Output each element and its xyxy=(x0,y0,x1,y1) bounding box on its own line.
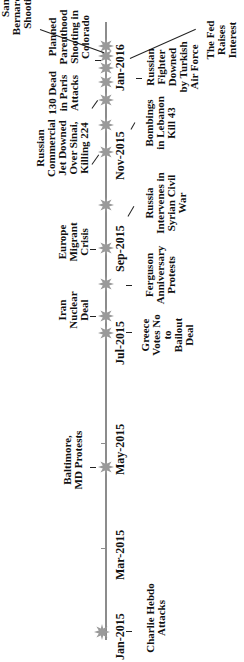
leader-line xyxy=(130,122,135,130)
event-marker-star-icon xyxy=(98,197,114,213)
event-marker-star-icon xyxy=(98,308,114,324)
leader-line xyxy=(95,60,101,61)
leader-line xyxy=(90,249,96,250)
event-label-san-bernardino: San Bernardino Shooting xyxy=(0,0,33,43)
event-marker-star-icon xyxy=(98,276,114,292)
leader-line xyxy=(90,467,96,468)
event-marker-star-icon xyxy=(94,624,110,640)
leader-line xyxy=(126,285,132,286)
event-label-fed-interest: The Fed Raises Interest xyxy=(205,12,238,68)
event-label-baltimore: Baltimore, MD Protests xyxy=(62,420,84,500)
event-marker-star-icon xyxy=(98,117,114,133)
event-marker-star-icon xyxy=(98,459,114,475)
month-label-sep-2015: Sep-2015 xyxy=(114,225,126,272)
month-label-mar-2015: Mar-2015 xyxy=(114,530,126,580)
month-label-nov-2015: Nov-2015 xyxy=(114,131,126,180)
event-label-planned-parenthood: Planned Parenthood Shooting in Colorado xyxy=(47,1,91,73)
event-marker-star-icon xyxy=(98,325,114,341)
month-label-may-2015: May-2015 xyxy=(114,424,126,475)
leader-line xyxy=(90,316,96,317)
axis-tick xyxy=(101,443,105,444)
leader-line xyxy=(136,78,142,79)
leader-line xyxy=(126,631,132,632)
event-label-russia-syria: Russia Intervenes in Syrian Civil War xyxy=(144,166,188,240)
timeline-chart: Jan-2015 Mar-2015 May-2015 Jul-2015 Sep-… xyxy=(0,0,244,662)
month-label-jan-2015: Jan-2015 xyxy=(114,613,126,660)
event-marker-star-icon xyxy=(98,240,114,256)
event-label-europe: Europe Migrant Crisis xyxy=(57,220,90,264)
event-marker-star-icon xyxy=(98,144,114,160)
event-label-russian-fighter: Russian Fighter Downed by Turkish Air Fo… xyxy=(145,31,200,103)
event-label-iran: Iran Nuclear Deal xyxy=(57,286,90,334)
axis-tick xyxy=(101,548,105,549)
event-label-ferguson: Ferguson Anniversary Protests xyxy=(144,240,177,310)
event-marker-star-icon xyxy=(98,74,114,90)
event-marker-star-icon xyxy=(98,92,114,108)
month-label-jan-2016: Jan-2016 xyxy=(114,44,126,91)
event-label-charlie-hebdo: Charlie Hebdo Attacks xyxy=(145,576,167,660)
leader-line xyxy=(127,206,134,217)
event-label-greece: Greece Votes No to Bailout Deal xyxy=(140,302,195,368)
leader-line xyxy=(126,332,132,333)
month-label-jul-2015: Jul-2015 xyxy=(114,321,126,365)
